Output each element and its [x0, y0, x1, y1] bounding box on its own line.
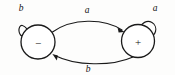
transition-plus-to-minus-path	[55, 56, 133, 64]
state-node-minus-label: −	[35, 37, 41, 49]
transition-minus-to-plus-group[interactable]: a	[53, 5, 125, 33]
self-loop-minus-label: b	[19, 3, 24, 13]
state-diagram-container: b a a b − +	[0, 0, 175, 75]
transition-plus-to-minus-arrowhead	[52, 54, 57, 61]
transition-minus-to-plus-label: a	[85, 5, 90, 15]
state-node-plus-label: +	[135, 36, 141, 48]
self-loop-plus-label: a	[153, 3, 158, 13]
transition-minus-to-plus-path	[53, 21, 123, 32]
state-node-minus-group[interactable]: −	[21, 25, 55, 59]
transition-plus-to-minus-label: b	[86, 64, 91, 74]
transition-plus-to-minus-group[interactable]: b	[52, 54, 133, 74]
state-node-plus-group[interactable]: +	[122, 25, 155, 58]
state-diagram-canvas: b a a b − +	[0, 0, 175, 75]
